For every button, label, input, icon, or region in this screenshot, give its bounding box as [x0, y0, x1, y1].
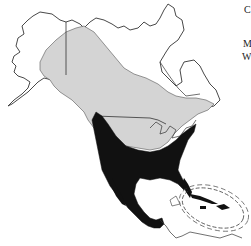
jamaica	[200, 206, 206, 209]
legend-label-w: W	[242, 51, 251, 62]
range-map	[0, 0, 251, 246]
legend-label-m: M	[243, 38, 251, 49]
cuba	[190, 194, 218, 204]
yucatan	[170, 196, 180, 206]
hispaniola	[216, 204, 230, 210]
legend-label-c: C	[244, 4, 251, 15]
central-america-coast	[160, 220, 242, 238]
